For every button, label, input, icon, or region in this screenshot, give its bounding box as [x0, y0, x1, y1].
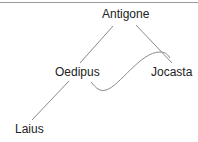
node-oedipus: Oedipus: [55, 65, 100, 79]
edge-oedipus-antigone: [80, 26, 113, 63]
node-laius: Laius: [15, 122, 44, 136]
node-antigone: Antigone: [102, 7, 149, 21]
edge-laius-oedipus: [32, 81, 69, 120]
edge-antigone-jocasta: [136, 25, 172, 63]
node-jocasta: Jocasta: [151, 65, 192, 79]
